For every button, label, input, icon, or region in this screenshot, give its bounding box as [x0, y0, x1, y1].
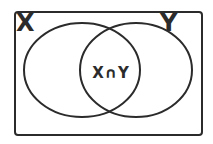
set-x-label: X: [16, 11, 35, 35]
set-y-label: Y: [160, 11, 177, 35]
intersection-label: X∩Y: [84, 64, 138, 82]
